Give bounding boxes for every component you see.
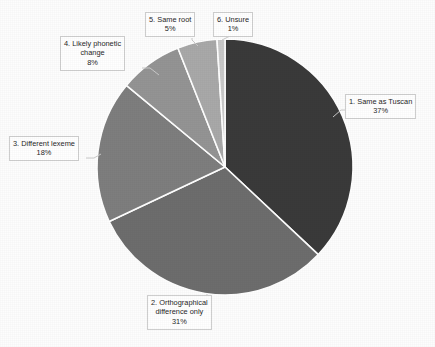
data-label-slice-4-value: 8% [64, 58, 121, 67]
data-label-slice-5: 5. Same root 5% [145, 12, 195, 37]
data-label-slice-2-value: 31% [151, 317, 208, 326]
data-label-slice-4-text-line1: 4. Likely phonetic [64, 39, 121, 48]
data-label-slice-2-text-line1: 2. Orthographical [151, 298, 208, 307]
pie-chart: 1. Same as Tuscan 37% 2. Orthographical … [0, 0, 435, 347]
data-label-slice-2-text-line2: difference only [151, 307, 208, 316]
data-label-slice-1-value: 37% [349, 106, 412, 115]
data-label-slice-3: 3. Different lexeme 18% [9, 136, 79, 161]
data-label-slice-3-value: 18% [13, 148, 75, 157]
data-label-slice-6-value: 1% [217, 24, 249, 33]
data-label-slice-1: 1. Same as Tuscan 37% [345, 94, 416, 119]
data-label-slice-6-text: 6. Unsure [217, 15, 249, 24]
pie-slice-group [97, 39, 353, 295]
data-label-slice-3-text: 3. Different lexeme [13, 139, 75, 148]
data-label-slice-2: 2. Orthographical difference only 31% [147, 295, 212, 330]
data-label-slice-5-value: 5% [149, 24, 191, 33]
data-label-slice-4: 4. Likely phonetic change 8% [60, 36, 125, 71]
data-label-slice-6: 6. Unsure 1% [213, 12, 253, 37]
data-label-slice-5-text: 5. Same root [149, 15, 191, 24]
data-label-slice-4-text-line2: change [64, 48, 121, 57]
data-label-slice-1-text: 1. Same as Tuscan [349, 97, 412, 106]
